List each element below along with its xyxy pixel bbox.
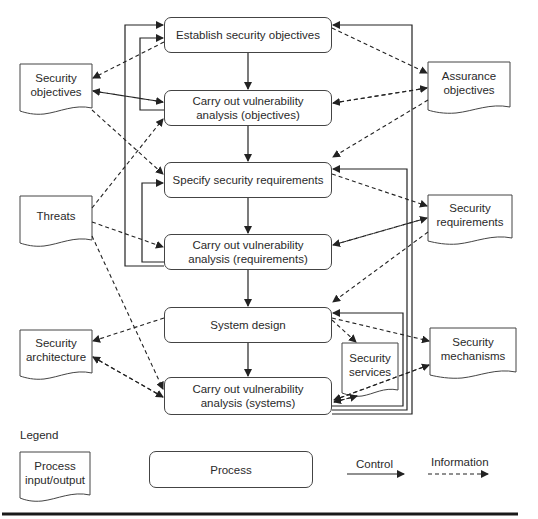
- legend-title: Legend: [20, 429, 58, 441]
- doc-security-objectives: Security objectives: [20, 64, 92, 106]
- process-establish-security-objectives: Establish security objectives: [164, 17, 332, 53]
- process-system-design: System design: [164, 307, 332, 343]
- doc-threats: Threats: [20, 196, 92, 236]
- doc-security-services: Security services: [342, 343, 398, 387]
- legend-document-label: Process input/output: [20, 452, 90, 494]
- legend-information-label: Information: [431, 456, 489, 468]
- process-va-systems: Carry out vulnerability analysis (system…: [164, 377, 332, 415]
- process-va-requirements: Carry out vulnerability analysis (requir…: [164, 234, 332, 270]
- doc-assurance-objectives: Assurance objectives: [428, 62, 510, 104]
- legend-process-box: Process: [149, 451, 313, 488]
- doc-security-mechanisms: Security mechanisms: [430, 328, 516, 370]
- process-va-objectives: Carry out vulnerability analysis (object…: [164, 90, 332, 126]
- doc-security-requirements: Security requirements: [428, 195, 512, 235]
- process-specify-security-requirements: Specify security requirements: [164, 162, 332, 198]
- legend-control-label: Control: [356, 458, 393, 470]
- doc-security-architecture: Security architecture: [20, 330, 92, 370]
